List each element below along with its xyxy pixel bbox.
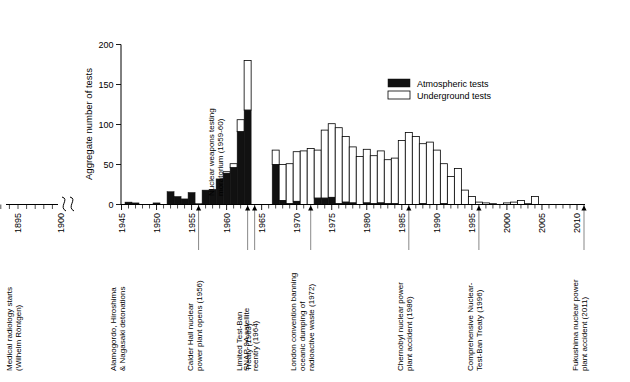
bar-group [398, 141, 405, 205]
annotation-arrow-icon [406, 206, 411, 211]
annotation-arrow-icon [196, 206, 201, 211]
annotation-ctbt-line2: Test-Ban Treaty (1996) [475, 289, 484, 371]
annotation-london-convention-line3: radioactive waste (1972) [307, 284, 316, 371]
axis-break-symbol [62, 197, 74, 211]
bar-underground-1981 [370, 156, 377, 204]
bar-atmospheric-1975 [328, 197, 335, 204]
annotation-snap-9a-line1: SNAP-9A satellite [242, 307, 251, 371]
bar-group [314, 150, 321, 204]
bar-atmospheric-1963 [244, 110, 251, 204]
nuclear-tests-chart: 050100150200Aggregate number of tests194… [0, 0, 630, 382]
bar-group [454, 169, 461, 205]
x-tick-label-1985: 1985 [397, 213, 407, 233]
x-tick-label-1970: 1970 [292, 213, 302, 233]
bar-underground-1970 [293, 152, 300, 202]
annotation-arrow-icon [581, 206, 586, 211]
x-tick-label-1945: 1945 [117, 213, 127, 233]
bar-atmospheric-1952 [167, 192, 174, 205]
bar-group [237, 120, 244, 205]
bar-group [391, 158, 398, 204]
x-tick-label-1950: 1950 [152, 213, 162, 233]
annotation-moratorium: Nuclear weapons testingmoratorium (1959-… [207, 108, 225, 196]
legend-swatch-atmospheric [388, 79, 410, 87]
annotation-moratorium-line1: Nuclear weapons testing [207, 108, 216, 196]
bar-group [279, 165, 286, 205]
annotation-calder-hall-line2: power plant opens (1956) [195, 280, 204, 371]
annotation-fukushima-line2: plant accident (2011) [580, 297, 589, 371]
annotation-alamogordo-line1: Alamogordo, Hiroshima [109, 287, 118, 371]
annotation-arrow-icon [476, 206, 481, 211]
x-tick-label-1900: 1900 [56, 213, 66, 233]
bar-group [335, 128, 342, 205]
x-tick-label-2000: 2000 [502, 213, 512, 233]
bar-group [174, 197, 181, 205]
bar-underground-1963 [244, 61, 251, 111]
annotation-calder-hall-line1: Calder Hall nuclear [186, 303, 195, 371]
annotation-snap-9a-line2: reentry (1964) [251, 320, 260, 371]
bar-group [188, 193, 195, 205]
bar-atmospheric-1968 [279, 201, 286, 205]
bar-group [433, 150, 440, 204]
bar-group [370, 156, 377, 205]
y-tick-label-100: 100 [98, 120, 113, 130]
bar-group [230, 164, 237, 205]
bar-group [356, 157, 363, 205]
bar-underground-1983 [384, 160, 391, 204]
bar-atmospheric-1962 [237, 132, 244, 205]
bar-underground-1985 [398, 141, 405, 205]
bar-underground-1974 [321, 130, 328, 198]
x-tick-label-2005: 2005 [537, 213, 547, 233]
bar-group [440, 164, 447, 205]
bar-atmospheric-1967 [272, 165, 279, 205]
bar-group [377, 151, 384, 205]
bar-underground-1988 [419, 144, 426, 204]
bar-group [426, 142, 433, 204]
y-axis-title: Aggregate number of tests [83, 68, 94, 180]
bar-underground-1972 [307, 149, 314, 205]
bar-group [181, 199, 188, 205]
bar-underground-1969 [286, 164, 293, 204]
bar-atmospheric-1961 [230, 168, 237, 205]
x-tick-label-1980: 1980 [362, 213, 372, 233]
bar-underground-1990 [433, 150, 440, 204]
bar-underground-1989 [426, 142, 433, 204]
bar-underground-1961 [230, 164, 237, 168]
bar-underground-1992 [447, 177, 454, 205]
bar-underground-2004 [531, 197, 538, 205]
annotation-moratorium-line2: moratorium (1959-60) [216, 118, 225, 196]
bar-group [321, 130, 328, 204]
bar-group [412, 137, 419, 205]
annotation-arrow-icon [308, 206, 313, 211]
legend-label-underground: Underground tests [417, 91, 492, 101]
bar-underground-1978 [349, 147, 356, 203]
bar-underground-2002 [517, 201, 524, 205]
bar-group [419, 144, 426, 205]
legend-label-atmospheric: Atmospheric tests [417, 79, 489, 89]
x-tick-label-1975: 1975 [327, 213, 337, 233]
annotation-alamogordo: Alamogordo, Hiroshima& Nagasaki detonati… [109, 287, 127, 372]
legend-swatch-underground [388, 91, 410, 99]
bar-underground-1976 [335, 128, 342, 204]
x-tick-label-2010: 2010 [572, 213, 582, 233]
annotation-medical-radiology-line1: Medical radiology starts [5, 287, 14, 371]
annotation-alamogordo-line2: & Nagasaki detonations [118, 287, 127, 372]
bar-underground-1973 [314, 150, 321, 198]
y-tick-label-200: 200 [98, 40, 113, 50]
annotation-arrow-icon [252, 206, 257, 211]
bar-underground-1982 [377, 151, 384, 203]
y-tick-label-50: 50 [103, 160, 113, 170]
bar-underground-1971 [300, 151, 307, 205]
bar-group [293, 152, 300, 205]
bar-underground-1994 [461, 190, 468, 204]
annotation-fukushima-line1: Fukushima nuclear power [571, 279, 580, 371]
legend: Atmospheric testsUnderground tests [388, 79, 492, 101]
annotation-ctbt-line1: Comprehensive Nuclear- [466, 282, 475, 371]
x-tick-label-1955: 1955 [187, 213, 197, 233]
bar-group [363, 149, 370, 204]
bar-underground-1979 [356, 157, 363, 205]
bar-group [405, 133, 412, 205]
bar-group [461, 190, 468, 204]
bar-atmospheric-1974 [321, 198, 328, 204]
annotation-london-convention-line1: London convention banning [289, 273, 298, 371]
x-tick-label-1995: 1995 [467, 213, 477, 233]
